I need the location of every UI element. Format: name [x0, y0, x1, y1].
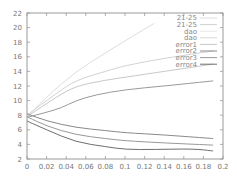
y-tick-label: 16 — [13, 53, 22, 61]
x-tick-label: 0.08 — [98, 163, 114, 171]
line-chart: 00.020.040.060.080.10.120.140.160.180.2 … — [0, 0, 237, 182]
x-tick-label: 0 — [25, 163, 29, 171]
y-tick-label: 22 — [13, 10, 22, 18]
y-tick-label: 2 — [18, 156, 22, 164]
x-tick-label: 0.12 — [137, 163, 153, 171]
x-tick-label: 0.18 — [196, 163, 212, 171]
y-tick-label: 20 — [13, 24, 22, 32]
series-line-dao — [27, 81, 213, 118]
series-line-error2 — [27, 114, 213, 139]
legend: 21-2521-25daodaoerror1error2error3error4 — [176, 14, 217, 68]
x-tick-label: 0.06 — [78, 163, 94, 171]
y-tick-label: 10 — [13, 97, 22, 105]
x-axis: 00.020.040.060.080.10.120.140.160.180.2 — [25, 13, 229, 171]
x-tick-label: 0.04 — [58, 163, 74, 171]
x-tick-label: 0.1 — [119, 163, 130, 171]
x-tick-label: 0.02 — [39, 163, 55, 171]
y-tick-label: 6 — [18, 126, 23, 134]
y-tick-label: 18 — [13, 39, 22, 47]
y-tick-label: 14 — [13, 68, 22, 76]
y-tick-label: 12 — [13, 83, 22, 91]
x-tick-label: 0.16 — [176, 163, 192, 171]
y-tick-label: 8 — [18, 112, 22, 120]
legend-label: error4 — [176, 61, 198, 69]
series-line-21-25 — [27, 23, 154, 116]
y-tick-label: 4 — [18, 141, 23, 149]
x-tick-label: 0.14 — [156, 163, 172, 171]
x-tick-label: 0.2 — [217, 163, 228, 171]
series-line-error3 — [27, 117, 213, 145]
